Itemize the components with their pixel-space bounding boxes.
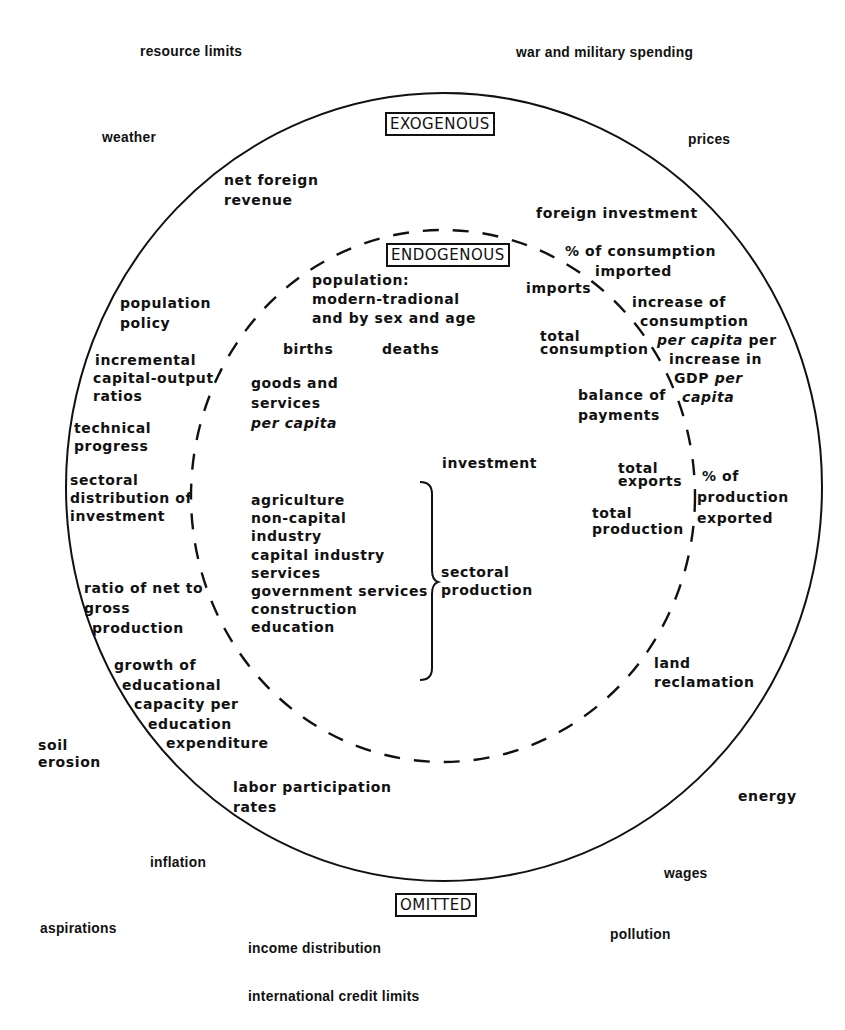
sector-industry: industry [251, 528, 322, 544]
factor-pollution: pollution [610, 925, 671, 942]
factor-prices: prices [688, 130, 730, 147]
variable-investment: investment [442, 455, 537, 472]
omitted-category-label: OMITTED [395, 893, 477, 917]
variable-total-production: total production [592, 505, 684, 537]
factor-aspirations: aspirations [40, 919, 117, 936]
endogenous-category-label: ENDOGENOUS [386, 243, 510, 267]
variable-balance-of-payments: balance of payments [578, 385, 666, 425]
variable-population: population: modern-tradional and by sex … [312, 271, 476, 328]
factor-soil-erosion: soil erosion [38, 737, 101, 771]
factor-sectoral-distribution-investment: sectoral distribution of investment [70, 471, 192, 525]
factor-net-foreign-revenue: net foreign revenue [224, 170, 319, 210]
factor-foreign-investment: foreign investment [536, 205, 698, 222]
factor-resource-limits: resource limits [140, 42, 242, 59]
sector-services: services [251, 565, 321, 581]
factor-ratio-net-to-gross-production: ratio of net to gross production [84, 578, 203, 638]
factor-pct-production-exported: % of production exported [697, 466, 789, 529]
variable-sector-list: agriculture non-capital industry capital… [251, 491, 428, 637]
sector-construction: construction [251, 601, 357, 617]
factor-wages: wages [664, 864, 708, 881]
variable-births: births [283, 341, 333, 358]
factor-war-military-spending: war and military spending [516, 43, 693, 60]
factor-energy: energy [738, 788, 797, 805]
sector-capital-industry: capital industry [251, 547, 385, 563]
factor-educational-capacity-growth: growth of educational capacity per educa… [114, 656, 269, 754]
variable-total-exports: total exports [618, 462, 682, 488]
factor-international-credit-limits: international credit limits [248, 987, 420, 1004]
factor-weather: weather [102, 128, 156, 145]
variable-total-consumption: total consumption [540, 330, 648, 356]
factor-labor-participation-rates: labor participation rates [233, 777, 392, 817]
factor-technical-progress: technical progress [74, 419, 151, 455]
sector-education: education [251, 619, 335, 635]
exogenous-category-label: EXOGENOUS [385, 112, 495, 136]
variable-imports: imports [526, 280, 591, 297]
variable-sectoral-production: sectoral production [441, 563, 533, 599]
factor-income-distribution: income distribution [248, 939, 381, 956]
factor-pct-consumption-imported: % of consumption imported [565, 241, 716, 281]
factor-incremental-capital-output-ratios: incremental capital-output ratios [93, 351, 214, 405]
variable-goods-services-per-capita: goods and services per capita [251, 373, 338, 433]
factor-population-policy: population policy [120, 293, 211, 333]
variable-deaths: deaths [382, 341, 440, 358]
factor-land-reclamation: land reclamation [654, 654, 755, 692]
sector-agriculture: agriculture [251, 492, 345, 508]
sector-government-services: government services [251, 583, 428, 599]
sector-non-capital: non-capital [251, 510, 346, 526]
factor-inflation: inflation [150, 853, 206, 870]
